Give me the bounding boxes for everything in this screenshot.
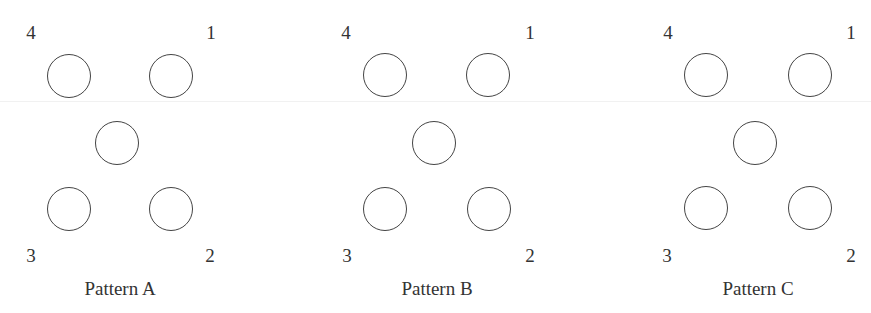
corner-label-top-right: 1 — [846, 23, 856, 42]
circle-bottom-right — [467, 187, 511, 231]
corner-label-top-right: 1 — [525, 23, 535, 42]
pattern-c: 4 1 3 2 Pattern C — [620, 0, 871, 313]
corner-label-top-right: 1 — [206, 23, 216, 42]
pattern-b: 4 1 3 2 Pattern B — [310, 0, 560, 313]
circle-bottom-left — [363, 187, 407, 231]
circle-top-left — [363, 53, 407, 97]
pattern-caption: Pattern B — [401, 279, 472, 299]
corner-label-bottom-left: 3 — [26, 246, 36, 265]
circle-bottom-left — [47, 187, 91, 231]
circle-center — [412, 121, 456, 165]
pattern-caption: Pattern C — [722, 279, 793, 299]
circle-bottom-right — [149, 187, 193, 231]
circle-center — [95, 121, 139, 165]
circle-center — [733, 121, 777, 165]
pattern-a: 4 1 3 2 Pattern A — [0, 0, 290, 313]
corner-label-bottom-right: 2 — [846, 246, 856, 265]
corner-label-top-left: 4 — [341, 23, 351, 42]
corner-label-bottom-right: 2 — [205, 246, 215, 265]
corner-label-bottom-left: 3 — [342, 246, 352, 265]
circle-top-right — [788, 53, 832, 97]
circle-top-right — [466, 53, 510, 97]
circle-top-right — [149, 54, 193, 98]
circle-bottom-left — [684, 186, 728, 230]
corner-label-top-left: 4 — [663, 23, 673, 42]
corner-label-top-left: 4 — [26, 23, 36, 42]
corner-label-bottom-right: 2 — [525, 246, 535, 265]
circle-bottom-right — [788, 186, 832, 230]
corner-label-bottom-left: 3 — [662, 246, 672, 265]
circle-top-left — [47, 54, 91, 98]
pattern-caption: Pattern A — [84, 279, 155, 299]
circle-top-left — [684, 53, 728, 97]
